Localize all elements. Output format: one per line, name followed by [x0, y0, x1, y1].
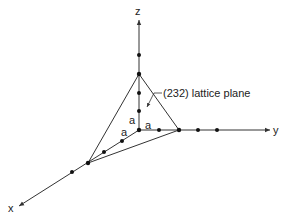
plane-label: (232) lattice plane	[163, 87, 250, 99]
x-point	[70, 170, 74, 174]
x-point	[120, 139, 124, 143]
y-axis-label: y	[273, 124, 279, 136]
x-point	[102, 150, 106, 154]
z-axis-label: z	[135, 5, 141, 17]
z-spacing-label: a	[129, 114, 136, 126]
origin-point	[137, 128, 141, 132]
y-point	[196, 128, 200, 132]
z-point-intercept	[137, 72, 141, 76]
y-spacing-label: a	[145, 119, 152, 131]
x-spacing-label: a	[121, 126, 128, 138]
y-point	[215, 128, 219, 132]
axes	[19, 20, 270, 206]
lattice-plane-diagram: z y x (232) lattice plane a a a	[0, 0, 287, 222]
z-point	[137, 91, 141, 95]
z-point	[137, 109, 141, 113]
x-point-intercept	[86, 161, 90, 165]
x-axis-label: x	[8, 202, 14, 214]
y-point-intercept	[177, 128, 181, 132]
z-point	[137, 53, 141, 57]
y-point	[157, 128, 161, 132]
